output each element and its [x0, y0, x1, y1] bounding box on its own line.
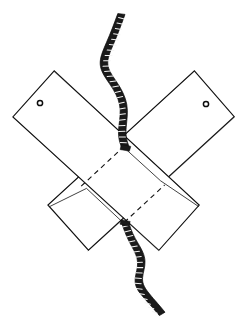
- illustration-root: [0, 0, 247, 331]
- board-right-hole-icon: [203, 101, 208, 106]
- board-left-hole-icon: [37, 100, 42, 105]
- crossed-boards-figure: [0, 0, 247, 331]
